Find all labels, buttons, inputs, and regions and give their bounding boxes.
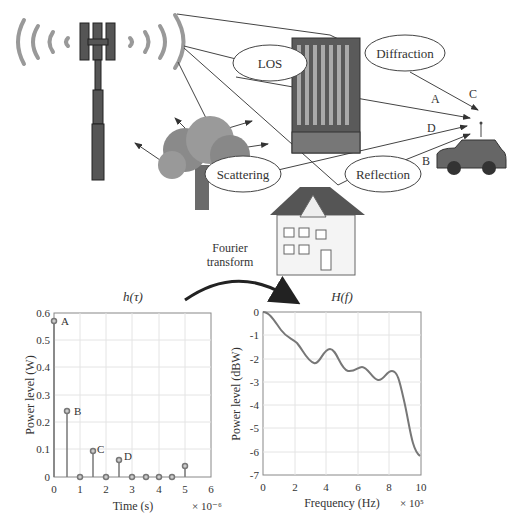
ellipse-label: LOS <box>258 56 283 71</box>
svg-text:2: 2 <box>103 483 109 495</box>
svg-text:5: 5 <box>182 483 188 495</box>
svg-text:C: C <box>97 443 104 455</box>
ellipse-label: Reflection <box>356 167 411 182</box>
fourier-arrow-icon <box>185 281 285 300</box>
svg-text:× 10⁻⁶: × 10⁻⁶ <box>192 500 222 512</box>
svg-text:Power level (W): Power level (W) <box>23 355 37 434</box>
house <box>270 187 365 275</box>
svg-text:Frequency (Hz): Frequency (Hz) <box>304 496 380 510</box>
svg-text:Power level (dBW): Power level (dBW) <box>229 347 243 440</box>
ellipse-scattering: Scattering <box>205 156 281 192</box>
chart-title: H(f) <box>330 289 353 304</box>
svg-text:4: 4 <box>323 481 329 493</box>
path-label-c: C <box>469 87 477 101</box>
ellipse-reflection: Reflection <box>345 156 421 192</box>
svg-text:-4: -4 <box>250 399 260 411</box>
svg-text:8: 8 <box>386 481 392 493</box>
svg-text:0.5: 0.5 <box>36 334 50 346</box>
chart-frequency-response: H(f) 0 -1 -2 -3 -4 -5 -6 -7 0 2 4 6 8 10 <box>229 289 427 510</box>
svg-text:A: A <box>61 315 69 327</box>
path-label-d: D <box>427 121 436 135</box>
svg-text:4: 4 <box>156 483 162 495</box>
fourier-label-line1: Fourier <box>212 241 247 255</box>
figure-canvas: LOS Diffraction Scattering Reflection A … <box>0 0 519 521</box>
svg-text:10: 10 <box>416 481 428 493</box>
svg-text:-3: -3 <box>250 376 260 388</box>
ellipse-label: Scattering <box>217 167 270 182</box>
svg-text:-1: -1 <box>250 329 259 341</box>
chart-impulse-response: h(τ) A B C D 0 0.1 0.2 0. <box>23 289 222 513</box>
svg-text:0: 0 <box>254 306 260 318</box>
ellipse-los: LOS <box>233 45 307 81</box>
svg-text:0.2: 0.2 <box>36 416 50 428</box>
svg-text:-5: -5 <box>250 422 260 434</box>
path-label-b: B <box>422 154 430 168</box>
svg-text:D: D <box>124 450 132 462</box>
path-label-a: A <box>431 92 440 106</box>
svg-text:0: 0 <box>51 483 57 495</box>
svg-text:B: B <box>74 405 81 417</box>
svg-text:0.4: 0.4 <box>36 361 50 373</box>
svg-text:0.3: 0.3 <box>36 389 50 401</box>
ellipse-label: Diffraction <box>376 46 434 61</box>
svg-text:× 10⁵: × 10⁵ <box>400 497 424 509</box>
svg-text:0: 0 <box>260 481 266 493</box>
svg-text:1: 1 <box>77 483 83 495</box>
svg-text:-2: -2 <box>250 353 259 365</box>
svg-text:-6: -6 <box>250 446 260 458</box>
svg-text:6: 6 <box>355 481 361 493</box>
svg-text:Time (s): Time (s) <box>113 499 154 513</box>
svg-text:0: 0 <box>45 471 51 483</box>
car <box>437 122 506 176</box>
svg-text:-7: -7 <box>250 469 260 481</box>
chart-title: h(τ) <box>123 289 143 304</box>
cell-tower <box>18 15 184 180</box>
svg-text:2: 2 <box>292 481 298 493</box>
svg-text:3: 3 <box>129 483 135 495</box>
svg-text:0.1: 0.1 <box>36 443 50 455</box>
svg-text:6: 6 <box>208 483 214 495</box>
svg-text:0.6: 0.6 <box>36 307 50 319</box>
ellipse-diffraction: Diffraction <box>365 35 445 71</box>
fourier-label-line2: transform <box>207 255 254 269</box>
